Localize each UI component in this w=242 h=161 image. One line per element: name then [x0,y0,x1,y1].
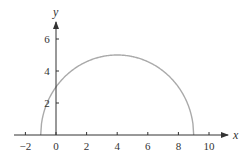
semicircle-chart: −20246810 246 x y [0,0,242,161]
y-axis-ticks: 246 [44,33,59,109]
x-tick-label: −2 [20,140,32,152]
y-tick-label: 4 [44,65,50,77]
x-tick-label: 10 [204,140,216,152]
y-tick-label: 6 [44,33,50,45]
y-axis-label: y [52,5,59,19]
y-tick-label: 2 [44,97,50,109]
x-tick-label: 4 [114,140,120,152]
x-tick-label: 0 [53,140,59,152]
x-tick-label: 2 [84,140,90,152]
x-tick-label: 8 [176,140,182,152]
semicircle-curve [41,55,194,135]
x-axis-label: x [232,128,239,142]
x-tick-label: 6 [145,140,151,152]
